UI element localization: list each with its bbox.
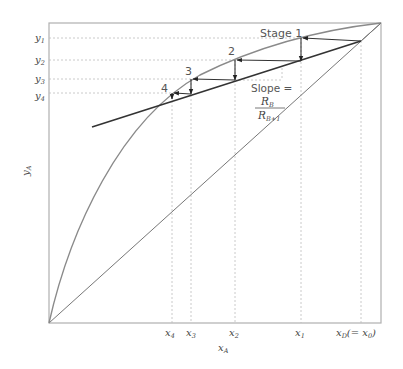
y1-label: y1 [34,32,45,45]
slope-label: Slope = [251,82,292,94]
x1-label: x1 [295,327,305,340]
x3-label: x3 [186,327,196,340]
stage-3-label: 3 [185,65,192,78]
x-guide-lines [172,38,361,323]
slope-numerator: RB [260,95,274,109]
y3-label: y3 [34,73,45,86]
x2-label: x2 [229,327,239,340]
slope-denominator: RB+1 [257,109,280,123]
y2-label: y2 [34,54,45,67]
stage-2-label: 2 [228,45,235,58]
x-axis-label: xA [218,342,229,355]
y-axis-label: yA [20,165,33,177]
stage-1-label: Stage 1 [260,27,302,40]
stage-4-label: 4 [161,82,168,95]
y4-label: y4 [34,90,45,103]
mccabe-thiele-diagram: Stage 1 2 3 4 Slope = RB RB+1 y1 y2 y3 y… [0,0,403,369]
operating-line [92,41,361,127]
x4-label: x4 [165,327,175,340]
xd-label: xD(= x0) [336,327,376,340]
